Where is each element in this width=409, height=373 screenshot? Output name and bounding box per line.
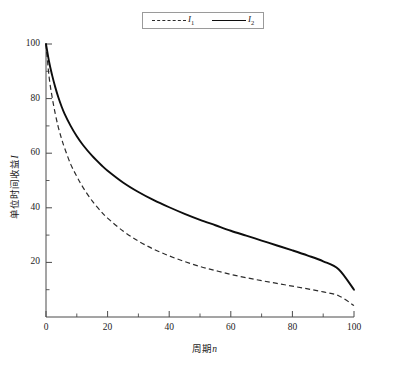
legend-swatch-dashed (152, 20, 186, 21)
legend-label-i2: I2 (248, 15, 254, 26)
x-tick-label: 40 (154, 323, 184, 333)
x-axis-ticks (46, 311, 354, 317)
axis-spines (46, 44, 354, 317)
x-tick-label: 100 (339, 323, 369, 333)
y-axis-title: 单位时间收益I (7, 155, 21, 218)
y-tick-label: 100 (12, 39, 40, 49)
legend-label-i1: I1 (188, 15, 194, 26)
x-tick-label: 0 (31, 323, 61, 333)
x-tick-label: 20 (93, 323, 123, 333)
x-tick-label: 80 (277, 323, 307, 333)
chart-legend: I1 I2 (142, 12, 264, 29)
series-line-i1 (46, 44, 354, 306)
y-tick-label: 20 (12, 257, 40, 267)
legend-swatch-solid (212, 20, 246, 21)
legend-entry-i1: I1 (152, 15, 194, 26)
y-tick-label: 80 (12, 94, 40, 104)
legend-entry-i2: I2 (212, 15, 254, 26)
series-line-i2 (46, 44, 354, 290)
x-tick-label: 60 (216, 323, 246, 333)
chart-figure: I1 I2 20406080100 020406080100 单位时间收益I 周… (0, 0, 409, 373)
x-axis-title: 周期n (0, 341, 409, 355)
plot-area (46, 44, 354, 317)
plot-svg (46, 44, 354, 317)
